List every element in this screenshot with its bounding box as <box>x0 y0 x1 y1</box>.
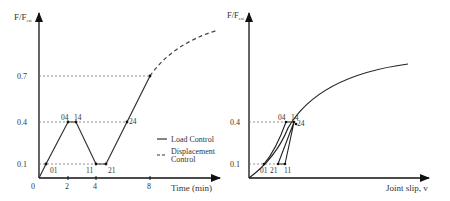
point-label-04: 04 <box>278 113 286 122</box>
displacement-control-curve <box>150 30 218 76</box>
point-label-11: 11 <box>284 166 291 175</box>
point-label-21: 21 <box>108 166 116 175</box>
point-label-01: 01 <box>50 166 58 175</box>
point-label-14: 14 <box>74 113 82 122</box>
point-label-01: 01 <box>260 166 268 175</box>
point-label-04: 04 <box>61 113 69 122</box>
x-axis-label: Joint slip, v <box>386 183 428 193</box>
loading-cycle <box>264 122 294 164</box>
legend-displacement-control-2: Control <box>171 155 196 164</box>
point-label-11: 11 <box>86 166 93 175</box>
y-tick-0.4: 0.4 <box>230 118 240 127</box>
x-tick-8: 8 <box>147 182 151 191</box>
origin-label: 0 <box>31 182 35 191</box>
y-tick-0.4: 0.4 <box>17 118 27 127</box>
point-label-24: 24 <box>129 117 137 126</box>
time-history-chart: F/Fest 0.7 0.4 0.1 0 2 4 8 Time (min) <box>14 12 220 193</box>
force-slip-chart: F/Fest 0.4 0.1 Joint slip, v 04 14 24 01… <box>227 10 429 193</box>
point-label-24: 24 <box>297 119 305 128</box>
legend-load-control: Load Control <box>171 135 215 144</box>
x-axis-label: Time (min) <box>171 183 212 193</box>
x-tick-2: 2 <box>65 182 69 191</box>
y-tick-0.1: 0.1 <box>17 160 27 169</box>
y-axis-label: F/Fest <box>227 10 245 21</box>
legend: Load Control Displacement Control <box>157 135 216 164</box>
x-tick-4: 4 <box>93 182 97 191</box>
y-axis-label: F/Fest <box>14 12 32 23</box>
figure: F/Fest 0.7 0.4 0.1 0 2 4 8 Time (min) <box>0 0 450 201</box>
y-tick-0.1: 0.1 <box>230 160 240 169</box>
y-tick-0.7: 0.7 <box>17 72 27 81</box>
point-label-21: 21 <box>270 166 278 175</box>
load-control-line <box>39 76 150 178</box>
envelope-curve <box>249 64 408 178</box>
